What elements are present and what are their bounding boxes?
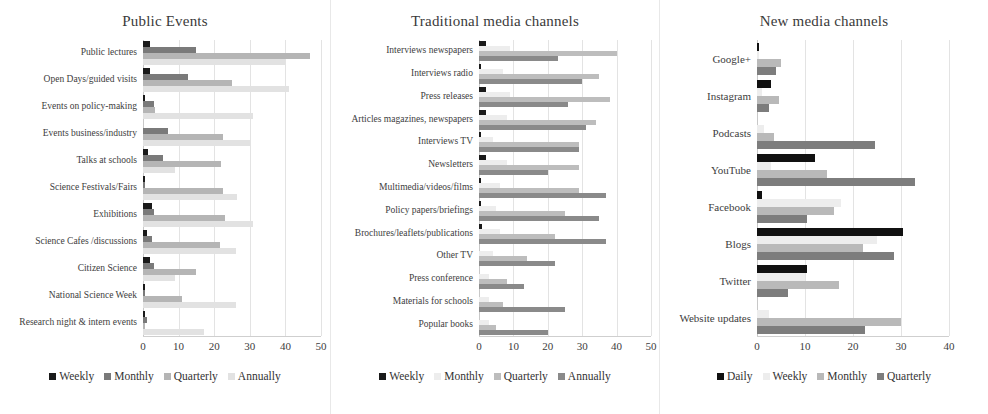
bar: [479, 193, 606, 198]
bar: [479, 261, 555, 266]
legend-swatch: [763, 373, 770, 380]
legend-swatch: [104, 373, 111, 380]
legend-label: Weekly: [773, 370, 808, 382]
gridline: [321, 40, 322, 336]
bar-group: Website updates: [757, 299, 949, 336]
bar: [143, 221, 253, 227]
x-tick-label: 10: [800, 340, 811, 352]
category-label: Instagram: [707, 91, 757, 102]
bar: [143, 194, 237, 200]
category-label: Interviews radio: [411, 69, 479, 79]
legend-label: Quarterly: [174, 370, 218, 382]
x-tick-label: 0: [476, 340, 482, 352]
panel-public-events: Public Events Public lecturesOpen Days/g…: [0, 0, 330, 414]
category-label: Brochures/leaflets/publications: [355, 229, 479, 239]
legend-label: Annually: [568, 370, 611, 382]
x-tick-label: 40: [611, 340, 622, 352]
x-tick-label: 40: [944, 340, 955, 352]
x-tick-label: 0: [140, 340, 146, 352]
legend-swatch: [717, 373, 724, 380]
legend-label: Annually: [238, 370, 281, 382]
category-label: Interviews newspapers: [386, 46, 479, 56]
legend-item: Weekly: [49, 370, 94, 382]
legend-swatch: [558, 373, 565, 380]
legend-label: Monthly: [114, 370, 154, 382]
bar: [757, 80, 771, 88]
legend-label: Weekly: [59, 370, 94, 382]
bar: [757, 51, 759, 59]
bar: [143, 248, 236, 254]
gridline: [651, 40, 652, 336]
legend-swatch: [228, 373, 235, 380]
category-label: Talks at schools: [76, 156, 143, 166]
bar: [143, 59, 285, 65]
category-label: Events on policy-making: [41, 102, 143, 112]
panel-traditional-media: Traditional media channels Interviews ne…: [330, 0, 660, 414]
x-tick-label: 50: [646, 340, 657, 352]
x-tick-label: 30: [244, 340, 255, 352]
bar: [479, 330, 548, 335]
bar-rows: Google+InstagramPodcastsYouTubeFacebookB…: [757, 40, 949, 336]
bar: [143, 302, 236, 308]
category-label: Materials for schools: [393, 297, 479, 307]
bar-group: Podcasts: [757, 114, 949, 151]
legend-swatch: [49, 373, 56, 380]
legend-item: Daily: [717, 370, 753, 382]
legend-item: Weekly: [379, 370, 424, 382]
bar-group: Instagram: [757, 77, 949, 114]
axis-line: [479, 336, 651, 337]
bar: [479, 56, 558, 61]
bar-group: Press releases: [479, 86, 651, 109]
legend-swatch: [379, 373, 386, 380]
bar-group: Science Festivals/Fairs: [143, 175, 321, 202]
bar: [143, 167, 175, 173]
bar-group: Google+: [757, 40, 949, 77]
bar: [757, 96, 779, 104]
legend: DailyWeeklyMonthlyQuarterly: [660, 370, 988, 382]
category-label: Research night & intern events: [19, 318, 143, 328]
category-label: Exhibitions: [93, 210, 143, 220]
legend-item: Monthly: [104, 370, 154, 382]
bar: [479, 216, 599, 221]
category-label: Science Cafes /discussions: [35, 237, 143, 247]
category-label: Podcasts: [713, 128, 758, 139]
bar: [757, 207, 834, 215]
x-tick-label: 30: [896, 340, 907, 352]
legend-item: Annually: [558, 370, 611, 382]
bar: [757, 154, 815, 162]
bar: [757, 191, 762, 199]
bar: [143, 329, 204, 335]
category-label: National Science Week: [49, 291, 143, 301]
panel-title: Public Events: [0, 10, 330, 32]
legend-swatch: [434, 373, 441, 380]
bar: [757, 199, 841, 207]
x-axis: 01020304050: [143, 336, 321, 356]
bar: [479, 102, 568, 107]
bar: [757, 88, 762, 96]
bar: [479, 239, 606, 244]
category-label: Public lectures: [81, 48, 143, 58]
bar: [757, 310, 769, 318]
category-label: Policy papers/briefings: [385, 206, 479, 216]
legend-label: Weekly: [389, 370, 424, 382]
bar: [757, 162, 771, 170]
legend-label: Monthly: [827, 370, 867, 382]
bar-rows: Public lecturesOpen Days/guided visitsEv…: [143, 40, 321, 336]
bar: [757, 244, 863, 252]
x-tick-label: 10: [508, 340, 519, 352]
bar: [143, 140, 250, 146]
plot-area: Interviews newspapersInterviews radioPre…: [479, 40, 651, 336]
bar: [757, 133, 774, 141]
x-tick-label: 20: [209, 340, 220, 352]
legend: WeeklyMonthlyQuarterlyAnnually: [0, 370, 330, 382]
bar-group: Open Days/guided visits: [143, 67, 321, 94]
bar: [757, 215, 807, 223]
bar: [757, 67, 776, 75]
axis-line: [143, 336, 321, 337]
category-label: Science Festivals/Fairs: [50, 183, 143, 193]
panel-title: Traditional media channels: [331, 10, 659, 32]
bar-group: Facebook: [757, 188, 949, 225]
legend-item: Quarterly: [877, 370, 931, 382]
bar: [757, 281, 839, 289]
legend-item: Quarterly: [494, 370, 548, 382]
